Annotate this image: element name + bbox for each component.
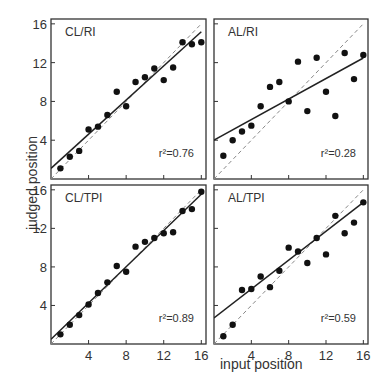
data-point <box>179 208 185 214</box>
data-point <box>161 230 167 236</box>
data-point <box>85 301 91 307</box>
x-tick-label: 12 <box>319 348 333 363</box>
data-point <box>123 103 129 109</box>
data-point <box>76 312 82 318</box>
panel-cl-ri: 481216CL/RIr²=0.76 <box>33 17 206 179</box>
data-point <box>220 333 226 339</box>
data-point <box>85 126 91 132</box>
data-point <box>304 108 310 114</box>
data-point <box>142 74 148 80</box>
data-point <box>276 79 282 85</box>
data-point <box>76 148 82 154</box>
data-point <box>189 41 195 47</box>
y-tick-label: 8 <box>40 260 47 275</box>
data-point <box>67 153 73 159</box>
data-point <box>351 219 357 225</box>
r-squared-annotation: r²=0.59 <box>321 312 356 324</box>
data-point <box>229 137 235 143</box>
r-squared-annotation: r²=0.28 <box>321 147 356 159</box>
data-point <box>132 243 138 249</box>
data-point <box>198 39 204 45</box>
data-point <box>323 89 329 95</box>
panel-cl-tpi: 481216481216CL/TPIr²=0.89 <box>33 183 209 363</box>
data-point <box>248 286 254 292</box>
data-point <box>95 290 101 296</box>
data-point <box>248 122 254 128</box>
figure-canvas: 481216CL/RIr²=0.76AL/RIr²=0.284812164812… <box>0 0 387 389</box>
y-tick-label: 8 <box>40 94 47 109</box>
data-point <box>276 268 282 274</box>
data-point <box>239 128 245 134</box>
data-point <box>114 263 120 269</box>
data-point <box>295 248 301 254</box>
data-point <box>189 206 195 212</box>
data-point <box>313 235 319 241</box>
data-point <box>142 239 148 245</box>
y-tick-label: 4 <box>40 133 47 148</box>
panel-title: CL/TPI <box>65 191 102 205</box>
x-tick-label: 8 <box>123 348 130 363</box>
data-point <box>295 58 301 64</box>
regression-line <box>214 202 363 318</box>
data-point <box>257 273 263 279</box>
data-point <box>332 213 338 219</box>
data-point <box>229 322 235 328</box>
data-point <box>67 322 73 328</box>
y-tick-label: 4 <box>40 298 47 313</box>
data-point <box>170 229 176 235</box>
data-point <box>267 84 273 90</box>
data-point <box>267 284 273 290</box>
data-point <box>360 52 366 58</box>
data-point <box>304 260 310 266</box>
x-axis-label: input position <box>220 356 303 372</box>
data-point <box>57 331 63 337</box>
y-axis-label: judged position <box>24 133 40 233</box>
data-point <box>104 279 110 285</box>
data-point <box>323 251 329 257</box>
panel-al-ri: AL/RIr²=0.28 <box>214 19 368 179</box>
data-point <box>285 244 291 250</box>
data-point <box>351 76 357 82</box>
data-point <box>161 77 167 83</box>
data-point <box>239 287 245 293</box>
x-tick-label: 12 <box>156 348 170 363</box>
x-tick-label: 16 <box>356 348 370 363</box>
data-point <box>114 89 120 95</box>
data-point <box>179 39 185 45</box>
panel-al-tpi: 481216AL/TPIr²=0.59 <box>214 185 371 363</box>
data-point <box>341 230 347 236</box>
data-point <box>170 64 176 70</box>
panel-title: AL/TPI <box>228 191 265 205</box>
data-point <box>313 55 319 61</box>
data-point <box>104 112 110 118</box>
y-tick-label: 12 <box>33 56 47 71</box>
r-squared-annotation: r²=0.89 <box>159 312 194 324</box>
panel-title: AL/RI <box>228 25 258 39</box>
y-tick-label: 16 <box>33 17 47 32</box>
data-point <box>123 269 129 275</box>
data-point <box>360 199 366 205</box>
x-tick-label: 4 <box>85 348 92 363</box>
data-point <box>220 153 226 159</box>
data-point <box>132 79 138 85</box>
data-point <box>151 65 157 71</box>
panel-title: CL/RI <box>65 25 96 39</box>
data-point <box>151 235 157 241</box>
data-point <box>285 98 291 104</box>
data-point <box>95 123 101 129</box>
data-point <box>198 189 204 195</box>
data-point <box>257 103 263 109</box>
r-squared-annotation: r²=0.76 <box>159 147 194 159</box>
data-point <box>57 165 63 171</box>
x-tick-label: 16 <box>194 348 208 363</box>
data-point <box>341 50 347 56</box>
data-point <box>332 113 338 119</box>
